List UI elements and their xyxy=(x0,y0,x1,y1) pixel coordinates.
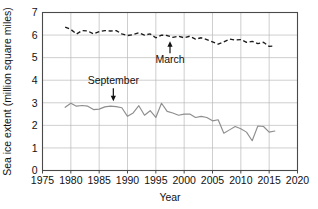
x-tick-label: 2015 xyxy=(257,174,281,186)
annotation-march: March xyxy=(155,41,184,65)
x-tick-label: 1995 xyxy=(144,174,168,186)
y-axis-title: Sea ice extent (million square miles) xyxy=(1,7,13,176)
arrow-head-icon xyxy=(111,96,116,102)
x-tick-label: 1990 xyxy=(116,174,140,186)
sea-ice-extent-chart: 01234567 1975198019851990199520002005201… xyxy=(0,0,318,209)
x-tick-label: 2020 xyxy=(286,174,310,186)
grid-lines xyxy=(43,13,298,171)
annotation-september: September xyxy=(88,74,140,101)
x-tick-label: 1985 xyxy=(87,174,111,186)
annotation-label-september: September xyxy=(88,74,140,86)
plot-frame xyxy=(43,13,298,171)
x-tick-label: 1975 xyxy=(31,174,55,186)
annotation-label-march: March xyxy=(155,53,184,65)
y-axis-tick-labels: 01234567 xyxy=(32,6,38,176)
arrow-head-icon xyxy=(167,41,172,47)
x-tick-label: 2010 xyxy=(229,174,253,186)
y-tick-label: 6 xyxy=(32,29,38,41)
y-tick-label: 5 xyxy=(32,51,38,63)
x-tick-label: 1980 xyxy=(59,174,83,186)
x-tick-label: 2005 xyxy=(201,174,225,186)
y-tick-label: 7 xyxy=(32,6,38,18)
y-tick-label: 3 xyxy=(32,97,38,109)
series-line-september xyxy=(65,103,275,140)
x-axis-tick-labels: 1975198019851990199520002005201020152020 xyxy=(31,174,310,186)
y-tick-label: 4 xyxy=(32,74,38,86)
y-tick-label: 1 xyxy=(32,142,38,154)
chart-canvas: 01234567 1975198019851990199520002005201… xyxy=(0,0,318,209)
x-axis-title: Year xyxy=(159,191,181,203)
y-tick-label: 2 xyxy=(32,119,38,131)
x-tick-label: 2000 xyxy=(172,174,196,186)
